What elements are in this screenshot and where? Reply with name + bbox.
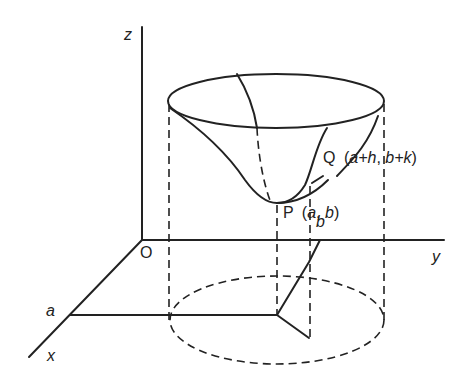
point-p-label: P (a, b) (283, 204, 339, 221)
origin-label: O (140, 244, 152, 261)
x-axis-label: x (46, 347, 56, 364)
surface-diagram: z y x O a b P (a, b) Q (a+h, b+k) (0, 0, 468, 375)
h-k-direction-line (277, 315, 309, 338)
y-axis-label: y (431, 248, 441, 265)
bowl-profile-curve (170, 108, 328, 203)
z-axis-label: z (123, 26, 132, 43)
meridian-curve-front (237, 74, 257, 128)
bowl-right-edge (337, 116, 378, 176)
point-q-label: Q (a+h, b+k) (323, 149, 417, 166)
x-axis (29, 240, 142, 357)
point-q-part1: a+h (349, 149, 376, 166)
surface-rim-ellipse (168, 74, 384, 128)
b-projection-line (277, 240, 320, 315)
point-p-b: b (325, 204, 334, 221)
q-leader-line (312, 176, 323, 183)
p-to-q-curve (277, 128, 327, 203)
diagram-canvas: z y x O a b P (a, b) Q (a+h, b+k) (0, 0, 468, 375)
x-tick-a-label: a (46, 302, 55, 319)
point-q-part2: b+k (385, 149, 412, 166)
point-p-a: a (307, 204, 316, 221)
point-p-name: P (283, 204, 293, 221)
point-q-name: Q (323, 149, 335, 166)
meridian-curve-hidden (257, 128, 271, 203)
